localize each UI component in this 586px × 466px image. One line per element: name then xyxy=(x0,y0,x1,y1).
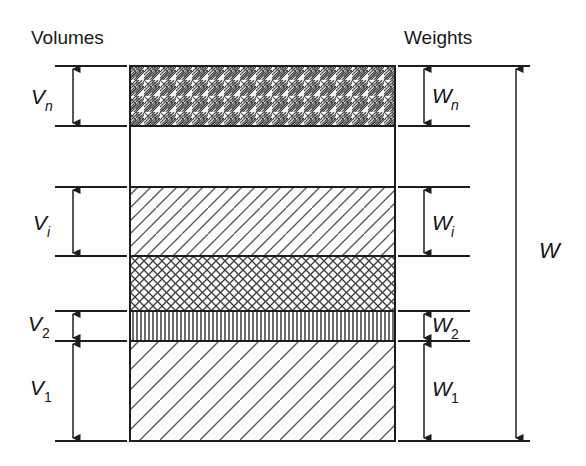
weight-label-w-total: W xyxy=(539,238,562,263)
band-n-fill xyxy=(130,66,395,126)
weight-label-w-total-base: W xyxy=(539,238,562,263)
soil-column-block xyxy=(130,66,395,441)
soil-phase-diagram: Volumes Weights xyxy=(0,0,586,466)
volume-label-v1: V 1 xyxy=(30,376,52,405)
band-2-fill xyxy=(130,311,395,341)
weight-label-w1: W 1 xyxy=(432,377,459,406)
band-i-fill xyxy=(130,187,395,256)
weight-label-wi: W i xyxy=(432,211,455,240)
band-1-fill xyxy=(130,341,395,441)
weight-label-wn: W n xyxy=(432,84,459,113)
band-void-fill xyxy=(130,126,395,187)
volume-tick-lines xyxy=(55,66,127,441)
volume-label-v2: V 2 xyxy=(28,312,50,341)
weight-tick-lines xyxy=(398,66,530,441)
volume-label-v1-subscript: 1 xyxy=(44,389,52,405)
weight-label-wi-subscript: i xyxy=(451,224,455,240)
volumes-header: Volumes xyxy=(31,27,104,48)
band-mid-fill xyxy=(130,256,395,311)
volume-label-vn-subscript: n xyxy=(45,98,53,114)
weight-label-w2: W 2 xyxy=(432,313,459,342)
weight-label-wn-subscript: n xyxy=(451,97,459,113)
diagram-canvas: Volumes Weights xyxy=(0,0,586,466)
volume-label-v2-subscript: 2 xyxy=(42,325,50,341)
volume-label-vi-subscript: i xyxy=(47,224,51,240)
volume-label-vn: V n xyxy=(31,85,53,114)
volume-label-vi: V i xyxy=(33,211,51,240)
weight-label-w1-subscript: 1 xyxy=(451,390,459,406)
weight-label-w2-subscript: 2 xyxy=(451,326,459,342)
weights-header: Weights xyxy=(404,27,472,48)
